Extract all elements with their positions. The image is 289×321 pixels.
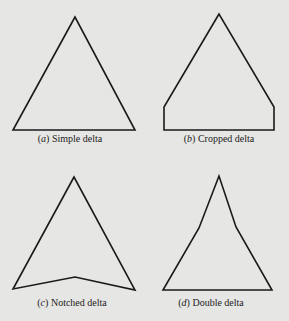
cropped-delta-shape bbox=[164, 14, 274, 130]
caption-notched-delta: (c) Notched delta bbox=[37, 297, 106, 308]
caption-title: Simple delta bbox=[52, 133, 102, 144]
caption-label: d bbox=[182, 297, 187, 308]
caption-label: a bbox=[41, 133, 46, 144]
caption-title: Notched delta bbox=[51, 297, 107, 308]
caption-cropped-delta: (b) Cropped delta bbox=[184, 133, 255, 144]
notched-delta-shape bbox=[13, 177, 135, 290]
double-delta-shape bbox=[163, 176, 272, 290]
caption-label: c bbox=[41, 297, 45, 308]
caption-label: b bbox=[187, 133, 192, 144]
caption-title: Cropped delta bbox=[198, 133, 254, 144]
caption-title: Double delta bbox=[192, 297, 243, 308]
delta-wing-figure: (a) Simple delta (b) Cropped delta (c) N… bbox=[0, 0, 289, 321]
shapes-canvas bbox=[0, 0, 289, 321]
caption-double-delta: (d) Double delta bbox=[178, 297, 244, 308]
caption-simple-delta: (a) Simple delta bbox=[38, 133, 102, 144]
simple-delta-shape bbox=[13, 17, 135, 130]
